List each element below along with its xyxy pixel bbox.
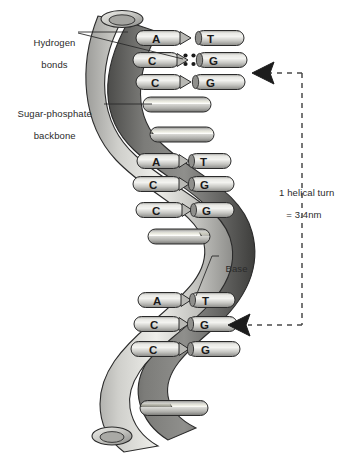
base-letter-G: G <box>201 344 210 356</box>
base-letter-C: C <box>151 77 159 89</box>
base-letter-G: G <box>209 55 218 67</box>
base-pair-rung-plain <box>150 127 214 142</box>
base-pair-group-top: A T C G C G <box>133 31 247 113</box>
base-letter-A: A <box>152 33 160 45</box>
label-base: Base <box>220 252 248 274</box>
base-letter-G: G <box>200 319 209 331</box>
backbone-bottom-tube-end <box>92 427 132 445</box>
label-hydrogen-bonds-line1: Hydrogen <box>33 37 75 48</box>
label-helical-turn-line1: 1 helical turn <box>279 187 334 198</box>
base-letter-G: G <box>206 77 215 89</box>
base-pair-rung-plain <box>140 401 208 416</box>
label-backbone-line1: Sugar-phosphate <box>17 108 91 119</box>
base-letter-G: G <box>200 179 209 191</box>
base-letter-A: A <box>153 295 161 307</box>
base-pair-rung-plain <box>148 229 210 244</box>
dot-icon <box>191 62 195 66</box>
base-pair-rung-plain <box>143 97 211 112</box>
base-pair-rung: A T <box>136 31 244 46</box>
label-hydrogen-bonds-line2: bonds <box>41 59 67 70</box>
base-letter-T: T <box>207 33 214 45</box>
base-letter-C: C <box>152 205 160 217</box>
base-letter-G: G <box>202 205 211 217</box>
base-pair-rung-with-hydrogen-bonds: C G <box>133 53 247 68</box>
base-pair-rung: C G <box>136 75 245 90</box>
base-letter-C: C <box>150 319 158 331</box>
dot-icon <box>183 53 187 57</box>
base-letter-A: A <box>152 156 160 168</box>
base-letter-C: C <box>149 179 157 191</box>
label-backbone-line2: backbone <box>34 130 76 141</box>
label-helical-turn-line2: = 3.4nm <box>258 209 350 220</box>
base-letter-T: T <box>202 295 209 307</box>
backbone-top-tube-end <box>101 11 143 28</box>
label-hydrogen-bonds: Hydrogen bonds <box>28 26 75 70</box>
label-helical-turn: 1 helical turn = 3.4nm <box>258 176 350 231</box>
base-letter-C: C <box>149 344 157 356</box>
dot-icon <box>191 53 195 57</box>
base-letter-C: C <box>148 55 156 67</box>
label-sugar-phosphate-backbone: Sugar-phosphate backbone <box>12 97 92 141</box>
base-letter-T: T <box>200 156 207 168</box>
label-base-line1: Base <box>225 263 247 274</box>
dot-icon <box>183 62 187 66</box>
